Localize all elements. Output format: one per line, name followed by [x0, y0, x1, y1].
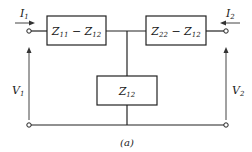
- terminal-output-bottom: [224, 123, 228, 127]
- label-i1: I1: [19, 7, 29, 21]
- terminal-input-top: [27, 29, 31, 33]
- t-network-diagram: Z11 − Z12 Z22 − Z12 Z12 I1 I2 V1 V2 (a): [0, 0, 252, 152]
- terminal-input-bottom: [27, 123, 31, 127]
- arrowhead-v1-icon: [27, 47, 32, 53]
- label-v1: V1: [12, 84, 24, 98]
- arrowhead-i1-icon: [29, 21, 35, 26]
- terminal-output-top: [224, 29, 228, 33]
- arrowhead-v2-icon: [224, 47, 229, 53]
- label-i2: I2: [225, 7, 235, 21]
- figure-caption: (a): [120, 137, 134, 148]
- label-v2: V2: [232, 84, 245, 98]
- arrowhead-i2-icon: [220, 21, 226, 26]
